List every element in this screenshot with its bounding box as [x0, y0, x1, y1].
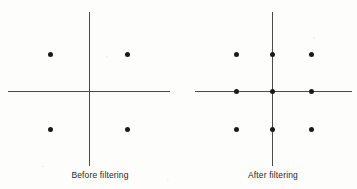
data-point [234, 127, 239, 132]
data-point [309, 89, 314, 94]
data-point [270, 127, 275, 132]
data-point [270, 52, 275, 57]
caption-before: Before filtering [71, 170, 128, 180]
data-point [309, 52, 314, 57]
data-point [234, 52, 239, 57]
caption-after: After filtering [248, 170, 298, 180]
data-point [125, 52, 130, 57]
vertical-axis-before [89, 12, 90, 166]
filtering-comparison-figure: Before filtering After filtering [0, 0, 357, 189]
data-point [309, 127, 314, 132]
data-point [125, 127, 130, 132]
data-point [48, 127, 53, 132]
data-point [48, 52, 53, 57]
data-point [270, 89, 275, 94]
paper-grain-texture [0, 0, 357, 189]
data-point [234, 89, 239, 94]
